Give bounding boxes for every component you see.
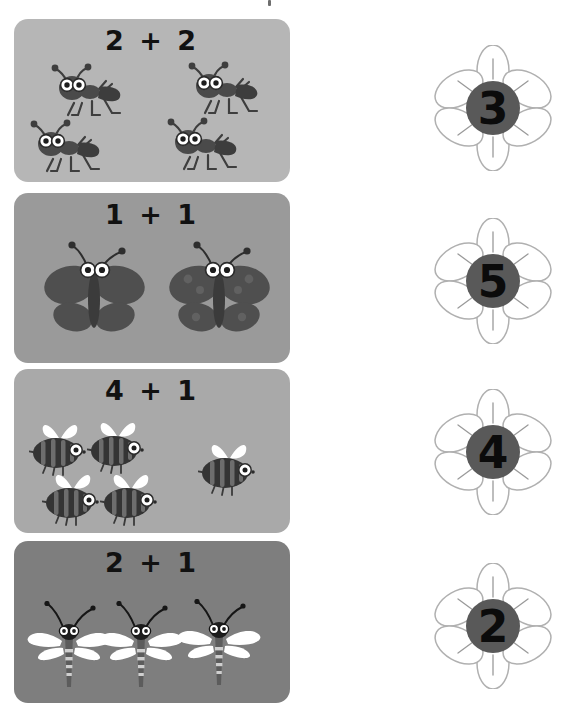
problem-card-1[interactable]: 2 + 2 (14, 19, 290, 182)
worksheet-page: 2 + 2 (0, 0, 580, 703)
answer-flower-4[interactable]: 2 (432, 563, 554, 689)
flower-number-label: 2 (432, 563, 554, 689)
ant-icon (42, 61, 128, 123)
butterfly-icon (39, 238, 149, 347)
equation-label-1: 2 + 2 (14, 25, 290, 56)
dragonfly-icon (26, 601, 112, 697)
equation-label-4: 2 + 1 (14, 547, 290, 578)
bee-icon (87, 417, 153, 483)
flower-number-label: 5 (432, 218, 554, 344)
flower-number-label: 4 (432, 389, 554, 515)
dragonfly-icon (176, 599, 262, 695)
ant-icon (158, 115, 244, 177)
problem-card-4[interactable]: 2 + 1 (14, 541, 290, 703)
butterfly-icon (164, 238, 274, 347)
answer-flower-2[interactable]: 5 (432, 218, 554, 344)
dragonfly-icon (98, 601, 184, 697)
page-speck-mark (268, 0, 271, 6)
answer-flower-1[interactable]: 3 (432, 45, 554, 171)
problem-card-2[interactable]: 1 + 1 (14, 193, 290, 363)
answer-flower-3[interactable]: 4 (432, 389, 554, 515)
ant-icon (21, 117, 107, 179)
equation-label-2: 1 + 1 (14, 199, 290, 230)
problem-card-3[interactable]: 4 + 1 (14, 369, 290, 533)
bee-icon (42, 469, 108, 533)
flower-number-label: 3 (432, 45, 554, 171)
ant-icon (179, 59, 265, 121)
bee-icon (198, 439, 264, 505)
bee-icon (29, 419, 95, 485)
equation-label-3: 4 + 1 (14, 375, 290, 406)
bee-icon (100, 469, 166, 533)
